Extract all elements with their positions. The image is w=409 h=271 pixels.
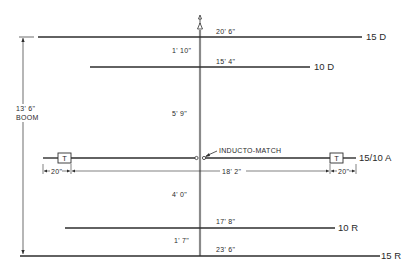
spacing-15d-10d: 1' 10" xyxy=(172,47,191,54)
element-15-10a-length: 18' 2" xyxy=(222,168,241,175)
element-15r-label: 15 R xyxy=(381,250,401,261)
spacing-10r-15r: 1' 7" xyxy=(174,237,189,244)
element-10r-label: 10 R xyxy=(338,222,358,233)
feedpoint-right xyxy=(202,156,205,159)
inducto-match-pointer xyxy=(205,151,217,157)
antenna-mast-icon xyxy=(198,15,203,29)
trap-left-symbol: T xyxy=(62,154,67,163)
yagi-antenna-diagram: 20' 6" 15 D 1' 10" 15' 4" 10 D 5' 9" T T… xyxy=(0,0,409,271)
element-15-10a-label: 15/10 A xyxy=(359,152,392,163)
spacing-15-10a-10r: 4' 0" xyxy=(172,191,187,198)
right-tip-length: 20" xyxy=(338,168,349,175)
element-15r-length: 23' 6" xyxy=(216,246,235,253)
trap-right-symbol: T xyxy=(334,154,339,163)
boom-label: BOOM xyxy=(16,114,39,121)
inducto-match-label: INDUCTO-MATCH xyxy=(219,147,281,154)
spacing-10d-15-10a: 5' 9" xyxy=(172,110,187,117)
left-tip-length: 20" xyxy=(51,168,62,175)
element-15d-length: 20' 6" xyxy=(216,28,235,35)
element-10r-length: 17' 8" xyxy=(216,218,235,225)
element-10d-label: 10 D xyxy=(314,61,334,72)
element-15d-label: 15 D xyxy=(366,31,386,42)
boom-length: 13' 6" xyxy=(16,105,35,112)
boom-dimension-line xyxy=(19,37,34,254)
element-10d-length: 15' 4" xyxy=(216,58,235,65)
feedpoint-left xyxy=(195,156,198,159)
